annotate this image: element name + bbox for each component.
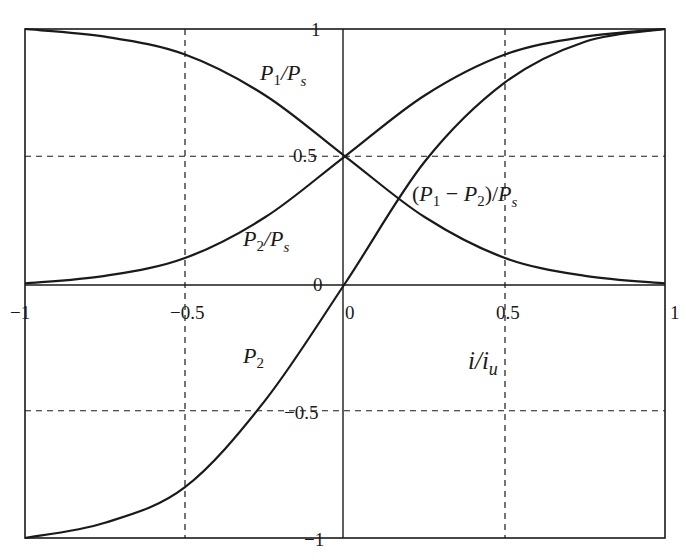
x-tick-0: 0 xyxy=(345,303,355,322)
label-p2: P2 xyxy=(243,345,264,371)
y-tick-0.5: 0.5 xyxy=(293,146,317,165)
y-tick-1: 1 xyxy=(311,20,321,39)
label-text: P xyxy=(464,181,477,206)
label-text: )/ xyxy=(485,181,498,206)
y-tick-0: 0 xyxy=(313,275,323,294)
label-subscript: 2 xyxy=(256,355,264,371)
label-text: P xyxy=(243,343,256,368)
label-text: P xyxy=(419,181,432,206)
label-text: P xyxy=(270,226,283,251)
label-text: − xyxy=(440,181,463,206)
data-series xyxy=(25,29,665,538)
y-tick-neg-1: −1 xyxy=(304,530,324,549)
label-subscript: 2 xyxy=(477,193,485,209)
x-tick-neg-0.5: −0.5 xyxy=(170,303,204,322)
label-subscript: s xyxy=(284,239,290,255)
x-tick-1: 1 xyxy=(670,303,680,322)
label-subscript: s xyxy=(301,73,307,89)
label-text: P xyxy=(287,60,300,85)
label-text: P xyxy=(498,181,511,206)
x-tick-0.5: 0.5 xyxy=(496,303,520,322)
label-subscript: u xyxy=(489,359,498,379)
chart-plot-area xyxy=(0,0,693,559)
label-text: P xyxy=(260,60,273,85)
series-line-2 xyxy=(25,29,665,538)
label-subscript: 2 xyxy=(256,238,264,254)
label-text: i/i xyxy=(468,347,489,374)
label-p2-over-ps: P2/Ps xyxy=(243,228,289,255)
label-subscript: 1 xyxy=(273,72,281,88)
label-subscript: s xyxy=(512,194,518,210)
x-axis-label: i/iu xyxy=(468,348,498,378)
label-p1-minus-p2-over-ps: (P1 − P2)/Ps xyxy=(412,183,517,210)
y-tick-neg-0.5: −0.5 xyxy=(284,403,318,422)
label-p1-over-ps: P1/Ps xyxy=(260,62,306,89)
label-text: P xyxy=(243,226,256,251)
x-tick-neg-1: −1 xyxy=(10,303,30,322)
